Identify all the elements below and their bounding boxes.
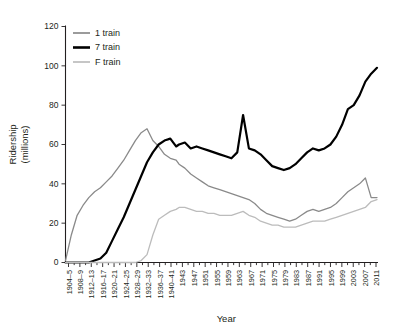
x-tick-label: 1975 xyxy=(270,270,279,286)
y-tick-label: 120 xyxy=(44,21,58,31)
y-tick-label: 80 xyxy=(49,100,59,110)
legend-label-7-train: 7 train xyxy=(95,42,120,52)
y-tick-label: 100 xyxy=(44,61,58,71)
x-tick-label: 1928–29 xyxy=(133,270,142,298)
x-tick-label: 1967 xyxy=(247,270,256,286)
y-tick-label: 60 xyxy=(49,139,59,149)
legend-label-f-train: F train xyxy=(95,57,121,67)
x-tick-label: 1987 xyxy=(304,270,313,286)
legend-label-1-train: 1 train xyxy=(95,28,120,38)
x-tick-label: 1983 xyxy=(292,270,301,286)
ridership-line-chart: 020406080100120 1904–51908–91912–131916–… xyxy=(0,0,396,333)
x-tick-label: 1995 xyxy=(327,270,336,286)
y-tick-label: 20 xyxy=(49,218,59,228)
x-tick-label: 1955 xyxy=(213,270,222,286)
x-axis-ticks: 1904–51908–91912–131916–171920–211924–25… xyxy=(65,263,382,299)
x-tick-label: 2007 xyxy=(361,270,370,286)
y-tick-label: 0 xyxy=(54,257,59,267)
x-tick-label: 1920–21 xyxy=(110,270,119,298)
x-axis-title: Year xyxy=(217,313,236,324)
x-tick-label: 1991 xyxy=(315,270,324,286)
x-tick-label: 1979 xyxy=(281,270,290,286)
x-tick-label: 1959 xyxy=(224,270,233,286)
x-tick-label: 1943 xyxy=(178,270,187,286)
data-series-group xyxy=(66,68,378,263)
chart-canvas: 020406080100120 1904–51908–91912–131916–… xyxy=(0,0,396,333)
y-axis-title-line2: (millions) xyxy=(19,126,30,164)
x-tick-label: 2011 xyxy=(372,270,381,286)
x-tick-label: 1940–41 xyxy=(167,270,176,298)
x-tick-label: 1912–13 xyxy=(87,270,96,298)
y-axis-ticks: 020406080100120 xyxy=(44,21,65,267)
x-tick-label: 1908–9 xyxy=(76,270,85,294)
y-axis-title-line1: Ridership xyxy=(7,124,18,164)
x-tick-label: 1999 xyxy=(338,270,347,286)
x-tick-label: 1963 xyxy=(235,270,244,286)
x-tick-label: 1947 xyxy=(190,270,199,286)
y-tick-label: 40 xyxy=(49,179,59,189)
x-tick-label: 1904–5 xyxy=(65,270,74,294)
x-tick-label: 1916–17 xyxy=(99,270,108,298)
x-tick-label: 2003 xyxy=(349,270,358,286)
x-tick-label: 1932–33 xyxy=(144,270,153,298)
x-tick-label: 1951 xyxy=(201,270,210,286)
x-tick-label: 1936–37 xyxy=(156,270,165,298)
series-line-f-train xyxy=(66,200,378,263)
x-tick-label: 1924–25 xyxy=(122,270,131,298)
series-line-7-train xyxy=(66,68,378,263)
x-tick-label: 1971 xyxy=(258,270,267,286)
chart-legend: 1 train7 trainF train xyxy=(73,28,121,67)
